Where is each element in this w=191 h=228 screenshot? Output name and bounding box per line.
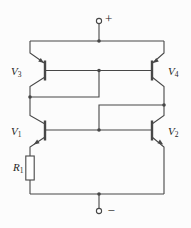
v3-label-sub: 3: [18, 70, 22, 79]
negative-terminal-icon: [96, 208, 101, 213]
v4-label-sub: 4: [175, 70, 179, 79]
junction-dot: [97, 192, 101, 196]
junction-dot: [97, 69, 101, 73]
v2-label-sub: 2: [175, 130, 179, 139]
junction-dot: [97, 39, 101, 43]
positive-terminal-label: +: [105, 11, 112, 26]
schematic-page: + − V3 V4 V1 V2 R1: [0, 0, 191, 228]
junction-dot: [162, 103, 166, 107]
r1-label-sub: 1: [20, 166, 24, 175]
junction-dot: [28, 95, 32, 99]
positive-terminal-icon: [96, 18, 101, 23]
junction-dot: [97, 128, 101, 132]
circuit-diagram: + − V3 V4 V1 V2 R1: [0, 0, 191, 228]
v1-label-sub: 1: [18, 130, 22, 139]
negative-terminal-label: −: [108, 203, 115, 218]
resistor-r1-body: [26, 156, 34, 180]
